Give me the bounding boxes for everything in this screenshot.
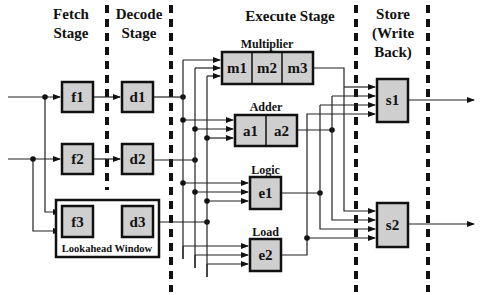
a1-label: a1 xyxy=(243,123,258,139)
fetch-stage-title-1: Fetch xyxy=(53,6,89,22)
m3-label: m3 xyxy=(288,60,308,76)
s1-label: s1 xyxy=(386,92,399,108)
e2-label: e2 xyxy=(258,247,272,263)
e1-label: e1 xyxy=(258,185,272,201)
multiplier-label: Multiplier xyxy=(241,37,294,51)
f1-label: f1 xyxy=(71,89,84,105)
f2-label: f2 xyxy=(71,151,84,167)
lookahead-window-label: Lookahead Window xyxy=(62,243,153,254)
fetch-stage-title-2: Stage xyxy=(54,25,89,41)
pipeline-diagram: Fetch Stage Decode Stage Execute Stage S… xyxy=(0,0,485,295)
decode-stage-title-2: Stage xyxy=(122,25,157,41)
adder-label: Adder xyxy=(250,100,283,114)
m1-label: m1 xyxy=(227,60,247,76)
d2-label: d2 xyxy=(130,151,146,167)
a2-label: a2 xyxy=(274,123,289,139)
d3-label: d3 xyxy=(130,214,146,230)
execute-stage-title: Execute Stage xyxy=(245,8,335,24)
store-stage-title-1: Store xyxy=(376,6,410,22)
f3-label: f3 xyxy=(71,214,84,230)
logic-label: Logic xyxy=(251,163,280,177)
s2-label: s2 xyxy=(386,217,399,233)
d1-label: d1 xyxy=(130,89,146,105)
store-stage-title-2: (Write xyxy=(372,25,415,42)
decode-stage-title-1: Decode xyxy=(116,6,163,22)
m2-label: m2 xyxy=(257,60,277,76)
load-label: Load xyxy=(252,225,279,239)
store-stage-title-3: Back) xyxy=(374,44,412,61)
